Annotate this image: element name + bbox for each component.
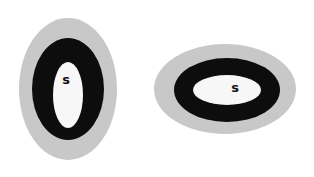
core-label: s	[62, 72, 70, 87]
diagram-canvas: s s	[0, 0, 314, 177]
inner-core	[193, 75, 261, 105]
figure-vertical-ellipse: s	[19, 18, 117, 160]
figure-horizontal-ellipse: s	[154, 44, 296, 134]
core-label: s	[231, 80, 239, 95]
